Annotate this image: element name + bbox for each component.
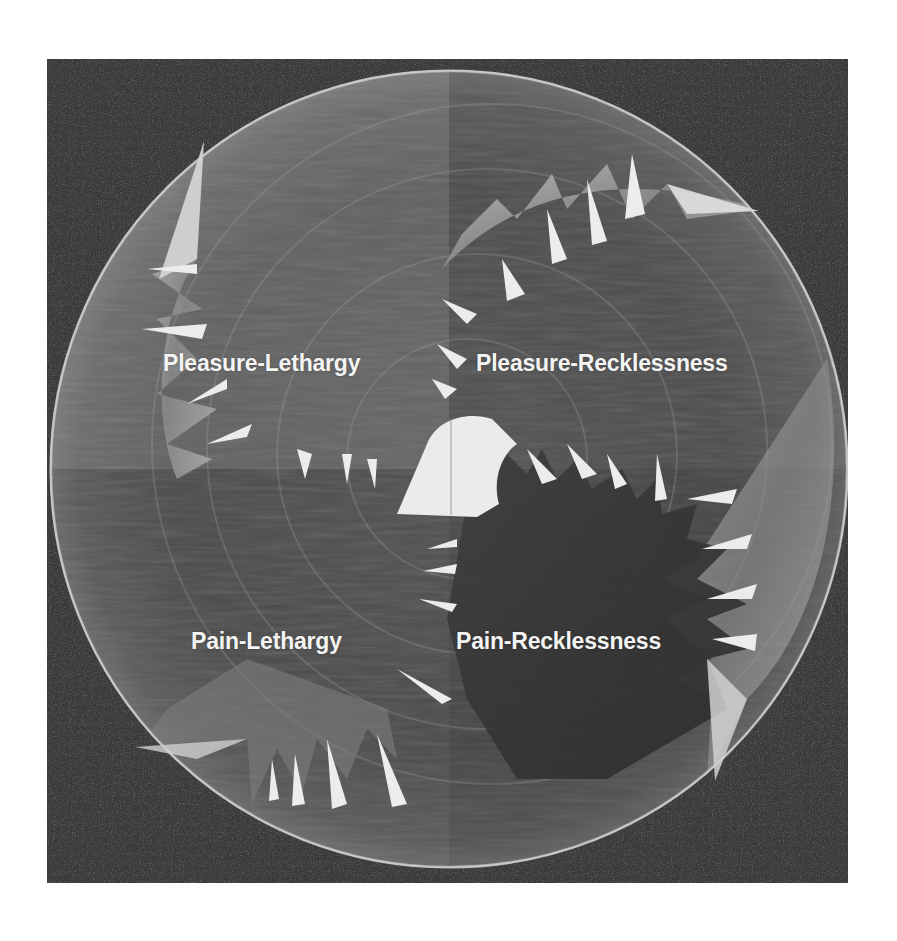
- disc-illustration: [47, 59, 848, 883]
- quadrant-disc-photo: Pleasure-Lethargy Pleasure-Recklessness …: [47, 59, 848, 883]
- quadrant-label-pain-recklessness: Pain-Recklessness: [456, 630, 661, 653]
- quadrant-label-pleasure-recklessness: Pleasure-Recklessness: [476, 352, 728, 375]
- quadrant-label-pain-lethargy: Pain-Lethargy: [191, 630, 342, 653]
- quadrant-label-pleasure-lethargy: Pleasure-Lethargy: [163, 352, 360, 375]
